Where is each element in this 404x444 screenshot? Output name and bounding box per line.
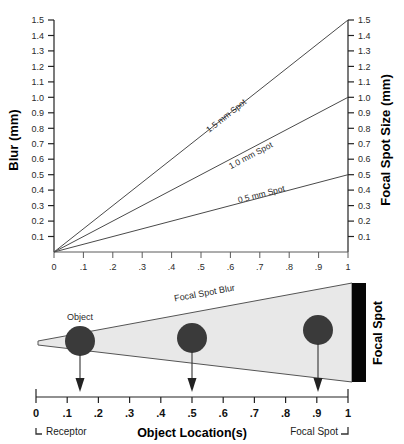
object-circle <box>303 315 333 345</box>
y-tick-label-right: 0.6 <box>358 154 371 164</box>
y-tick-label-left: 1.3 <box>31 46 44 56</box>
loc-tick-label: 0 <box>33 407 39 419</box>
object-label: Object <box>67 312 94 322</box>
focal-spot-endpoint-label: Focal Spot <box>290 426 338 437</box>
x-tick-label: .4 <box>168 262 176 272</box>
y-tick-label-left: 1.5 <box>31 15 44 25</box>
focal-spot-bar <box>352 283 366 382</box>
y-tick-label-left: 1.1 <box>31 77 44 87</box>
y-tick-label-right: 0.2 <box>358 216 371 226</box>
y-tick-label-left: 0.4 <box>31 185 44 195</box>
loc-tick-label: 1 <box>345 407 351 419</box>
y-tick-label-right: 1.2 <box>358 62 371 72</box>
figure-svg: Blur (mm) Focal Spot Size (mm) 1.5 1.4 1… <box>0 0 404 444</box>
y-axis-title-left: Blur (mm) <box>6 109 21 170</box>
y-tick-label-left: 1.4 <box>31 31 44 41</box>
x-tick-label: 1 <box>345 262 350 272</box>
focal-spot-side-label: Focal Spot <box>371 300 385 365</box>
x-tick-label: .6 <box>227 262 235 272</box>
y-tick-label-right: 0.7 <box>358 139 371 149</box>
y-tick-label-right: 1.0 <box>358 93 371 103</box>
y-axis-title-right: Focal Spot Size (mm) <box>378 74 393 205</box>
y-tick-label-right: 0.4 <box>358 185 371 195</box>
y-tick-label-right: 1.4 <box>358 31 371 41</box>
y-tick-label-left: 0.6 <box>31 154 44 164</box>
y-tick-label-right: 1.1 <box>358 77 371 87</box>
figure-container: Blur (mm) Focal Spot Size (mm) 1.5 1.4 1… <box>0 0 404 444</box>
y-tick-label-left: 0.2 <box>31 216 44 226</box>
y-tick-label-left: 0.3 <box>31 201 44 211</box>
loc-tick-label: .7 <box>250 407 259 419</box>
x-tick-label: .1 <box>80 262 88 272</box>
x-tick-label: .2 <box>109 262 117 272</box>
y-tick-label-left: 0.9 <box>31 108 44 118</box>
object-location-axis-title: Object Location(s) <box>137 426 247 440</box>
y-tick-label-right: 0.8 <box>358 124 371 134</box>
y-tick-label-right: 0.9 <box>358 108 371 118</box>
y-tick-label-left: 0.1 <box>31 232 44 242</box>
loc-tick-label: .3 <box>125 407 134 419</box>
loc-tick-label: .8 <box>281 407 290 419</box>
x-tick-label: .9 <box>315 262 323 272</box>
object-circle <box>65 326 95 356</box>
y-tick-label-right: 0.3 <box>358 201 371 211</box>
loc-tick-label: .2 <box>94 407 103 419</box>
y-tick-label-left: 1.0 <box>31 93 44 103</box>
x-tick-label: .8 <box>285 262 293 272</box>
y-tick-label-left: 0.5 <box>31 170 44 180</box>
y-tick-label-right: 0.1 <box>358 232 371 242</box>
x-tick-label: .7 <box>256 262 264 272</box>
loc-tick-label: .1 <box>63 407 72 419</box>
loc-tick-label: .9 <box>312 407 321 419</box>
loc-tick-label: .4 <box>156 407 166 419</box>
loc-tick-label: .6 <box>219 407 228 419</box>
y-tick-label-right: 0.5 <box>358 170 371 180</box>
x-tick-label: .5 <box>197 262 205 272</box>
x-tick-label: 0 <box>51 262 56 272</box>
y-tick-label-left: 0.7 <box>31 139 44 149</box>
y-tick-label-right: 1.3 <box>358 46 371 56</box>
receptor-label: Receptor <box>46 426 87 437</box>
y-tick-label-right: 1.5 <box>358 15 371 25</box>
object-circle <box>177 323 207 353</box>
y-tick-label-left: 0.8 <box>31 124 44 134</box>
loc-tick-label: .5 <box>187 407 196 419</box>
y-tick-label-left: 1.2 <box>31 62 44 72</box>
x-tick-label: .3 <box>138 262 146 272</box>
